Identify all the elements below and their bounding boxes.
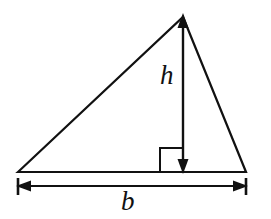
diagram-canvas [0,0,271,219]
height-label: h [160,62,174,89]
triangle-outline [18,17,246,172]
triangle-diagram: h b [0,0,271,219]
base-label: b [121,188,135,215]
